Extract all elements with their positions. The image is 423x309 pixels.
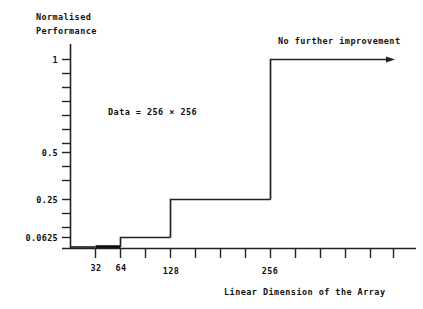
y-tick-label-0.5: 0.5 (8, 148, 58, 158)
chart-root: Normalised Performance 1 0.5 0.25 0.0625… (0, 0, 423, 309)
data-size-annotation: Data = 256 × 256 (108, 107, 197, 117)
step-segment-256-plateau (271, 60, 391, 200)
chart-canvas (0, 0, 423, 309)
no-further-improvement-annotation: No further improvement (278, 36, 400, 46)
x-tick-label-256: 256 (252, 266, 288, 276)
step-curve-group (71, 56, 396, 247)
y-tick-label-0.25: 0.25 (4, 195, 58, 205)
x-axis-ticks (96, 249, 394, 259)
y-tick-label-1: 1 (18, 55, 58, 65)
x-tick-label-64: 64 (105, 263, 137, 273)
plateau-arrow-head (386, 56, 395, 62)
y-axis-ticks (62, 60, 71, 238)
y-axis-title-line-2: Performance (36, 26, 97, 36)
step-segment-64-128 (121, 238, 171, 248)
axes-group (62, 44, 416, 249)
step-segment-128-256 (171, 200, 271, 238)
x-axis-title: Linear Dimension of the Array (224, 287, 385, 297)
x-tick-label-128: 128 (153, 266, 189, 276)
y-axis-title-line-1: Normalised (36, 12, 91, 22)
y-tick-label-0.0625: 0.0625 (0, 233, 58, 243)
